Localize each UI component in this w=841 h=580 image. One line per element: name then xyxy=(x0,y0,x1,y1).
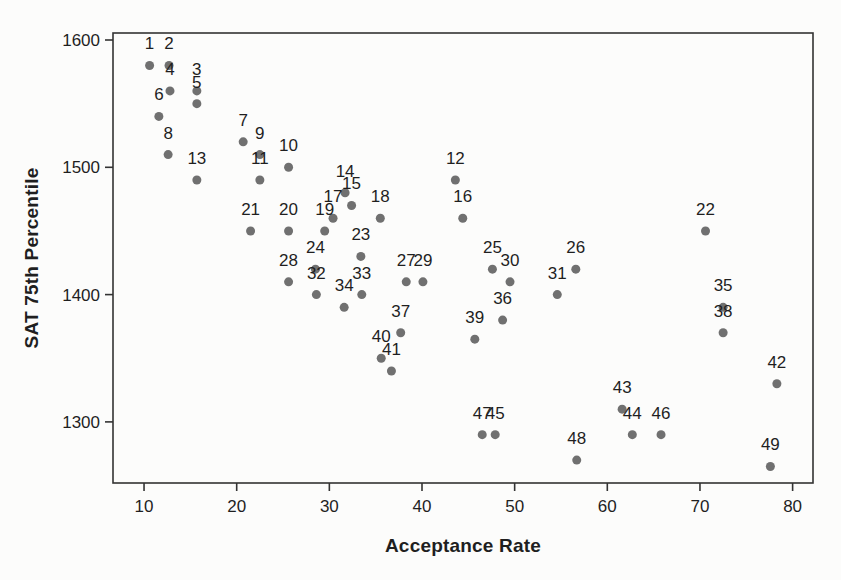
data-point-label: 41 xyxy=(382,340,401,359)
data-point-label: 13 xyxy=(187,149,206,168)
data-point-label: 47 xyxy=(473,404,492,423)
data-point-label: 35 xyxy=(714,276,733,295)
data-point-label: 38 xyxy=(714,302,733,321)
data-point-label: 23 xyxy=(351,225,370,244)
data-point xyxy=(506,277,515,286)
data-point xyxy=(165,86,174,95)
x-tick-label: 70 xyxy=(691,497,710,516)
data-point-label: 36 xyxy=(493,289,512,308)
data-point xyxy=(387,366,396,375)
data-point xyxy=(719,328,728,337)
data-point-label: 2 xyxy=(164,34,173,53)
data-point xyxy=(553,290,562,299)
x-tick-label: 40 xyxy=(413,497,432,516)
data-point-label: 19 xyxy=(315,200,334,219)
data-point-label: 49 xyxy=(761,435,780,454)
data-point-label: 42 xyxy=(767,353,786,372)
y-tick-label: 1300 xyxy=(62,413,100,432)
y-axis-title: SAT 75th Percentile xyxy=(21,168,42,349)
data-point xyxy=(572,456,581,465)
data-point-label: 4 xyxy=(165,60,174,79)
data-point xyxy=(340,303,349,312)
x-tick-label: 30 xyxy=(320,497,339,516)
data-point xyxy=(498,316,507,325)
data-point xyxy=(571,265,580,274)
x-tick-label: 60 xyxy=(598,497,617,516)
data-point xyxy=(376,214,385,223)
y-tick-label: 1500 xyxy=(62,158,100,177)
data-point xyxy=(320,226,329,235)
data-point-label: 9 xyxy=(255,124,264,143)
data-point-label: 31 xyxy=(548,264,567,283)
data-point-label: 1 xyxy=(145,34,154,53)
y-tick-label: 1400 xyxy=(62,286,100,305)
data-point-label: 29 xyxy=(413,251,432,270)
data-point xyxy=(470,335,479,344)
data-point xyxy=(347,201,356,210)
data-point xyxy=(255,176,264,185)
data-point xyxy=(246,226,255,235)
data-point xyxy=(458,214,467,223)
data-point-label: 18 xyxy=(371,187,390,206)
data-point xyxy=(192,99,201,108)
data-point xyxy=(284,277,293,286)
plot-frame xyxy=(113,33,813,483)
data-point xyxy=(701,226,710,235)
data-point xyxy=(418,277,427,286)
data-point xyxy=(239,137,248,146)
data-point-label: 22 xyxy=(696,200,715,219)
data-point-label: 48 xyxy=(567,429,586,448)
data-point xyxy=(145,61,154,70)
data-point-label: 16 xyxy=(453,187,472,206)
data-point-label: 26 xyxy=(566,238,585,257)
data-point xyxy=(488,265,497,274)
scatter-chart: 1020304050607080 1300140015001600 123456… xyxy=(0,0,841,580)
data-point-label: 12 xyxy=(446,149,465,168)
data-point-label: 24 xyxy=(306,238,325,257)
data-point-label: 20 xyxy=(279,200,298,219)
data-point-label: 30 xyxy=(501,251,520,270)
x-axis: 1020304050607080 xyxy=(135,483,802,516)
data-point-label: 7 xyxy=(238,111,247,130)
data-point-label: 37 xyxy=(391,302,410,321)
data-point-label: 25 xyxy=(483,238,502,257)
data-point xyxy=(154,112,163,121)
data-point xyxy=(284,163,293,172)
data-point-label: 10 xyxy=(279,136,298,155)
data-point-label: 5 xyxy=(192,73,201,92)
y-axis: 1300140015001600 xyxy=(62,31,113,432)
data-point xyxy=(357,290,366,299)
data-point-label: 15 xyxy=(342,174,361,193)
data-point xyxy=(312,290,321,299)
data-point xyxy=(192,176,201,185)
data-point xyxy=(356,252,365,261)
data-point xyxy=(396,328,405,337)
data-point-label: 21 xyxy=(241,200,260,219)
points-layer: 1234567891011121314151617181920212223242… xyxy=(145,34,786,470)
data-point-label: 32 xyxy=(307,264,326,283)
data-point xyxy=(491,430,500,439)
data-point-label: 8 xyxy=(163,124,172,143)
scatterplot-figure: 1020304050607080 1300140015001600 123456… xyxy=(0,0,841,580)
x-tick-label: 80 xyxy=(783,497,802,516)
data-point xyxy=(451,176,460,185)
data-point-label: 11 xyxy=(251,149,269,168)
data-point xyxy=(164,150,173,159)
data-point-label: 33 xyxy=(352,264,371,283)
data-point xyxy=(657,430,666,439)
data-point xyxy=(402,277,411,286)
x-tick-label: 10 xyxy=(135,497,154,516)
data-point xyxy=(772,379,781,388)
y-tick-label: 1600 xyxy=(62,31,100,50)
x-tick-label: 50 xyxy=(505,497,524,516)
data-point-label: 43 xyxy=(613,378,632,397)
data-point-label: 44 xyxy=(623,404,642,423)
data-point-label: 46 xyxy=(652,404,671,423)
data-point xyxy=(766,462,775,471)
data-point xyxy=(284,226,293,235)
data-point-label: 39 xyxy=(465,308,484,327)
x-tick-label: 20 xyxy=(227,497,246,516)
data-point xyxy=(628,430,637,439)
x-axis-title: Acceptance Rate xyxy=(385,535,541,556)
data-point-label: 34 xyxy=(335,276,354,295)
